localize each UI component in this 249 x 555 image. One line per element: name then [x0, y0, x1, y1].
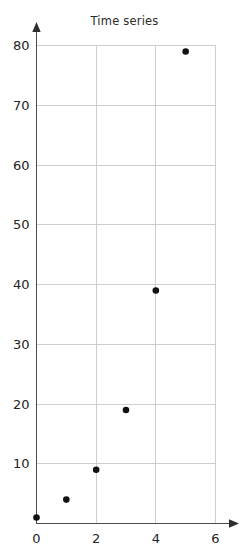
- x-axis-tick-labels: 0246: [32, 531, 219, 546]
- data-point: [33, 514, 40, 521]
- data-point: [63, 496, 70, 503]
- grid-lines: [37, 46, 216, 524]
- scatter-plot: 1020304050607080 0246: [0, 0, 249, 555]
- data-point: [123, 407, 130, 414]
- x-tick-label: 0: [32, 531, 40, 546]
- y-tick-label: 80: [13, 38, 30, 53]
- y-tick-label: 10: [13, 456, 30, 471]
- y-tick-label: 30: [13, 337, 30, 352]
- x-axis-arrow-icon: [229, 519, 239, 527]
- x-tick-label: 2: [92, 531, 100, 546]
- axes: [32, 22, 239, 528]
- chart-figure: Time series 1020304050607080 0246: [0, 0, 249, 555]
- y-tick-label: 60: [13, 158, 30, 173]
- y-tick-label: 20: [13, 397, 30, 412]
- y-axis-arrow-icon: [32, 22, 40, 32]
- data-point: [93, 466, 100, 473]
- y-tick-label: 40: [13, 277, 30, 292]
- x-tick-label: 4: [152, 531, 160, 546]
- x-tick-label: 6: [211, 531, 219, 546]
- data-point: [153, 287, 160, 294]
- y-tick-label: 70: [13, 98, 30, 113]
- y-axis-tick-labels: 1020304050607080: [13, 38, 30, 471]
- y-tick-label: 50: [13, 217, 30, 232]
- data-point: [182, 48, 189, 55]
